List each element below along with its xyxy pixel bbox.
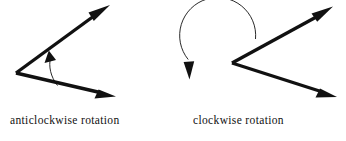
terminal-ray [232, 7, 333, 64]
initial-ray [232, 63, 337, 98]
caption-clockwise: clockwise rotation [193, 114, 284, 126]
initial-ray [16, 73, 116, 99]
diagram-clockwise [180, 0, 337, 97]
caption-anticlockwise: anticlockwise rotation [10, 114, 120, 126]
terminal-ray [16, 5, 110, 73]
diagram-anticlockwise [16, 5, 116, 99]
